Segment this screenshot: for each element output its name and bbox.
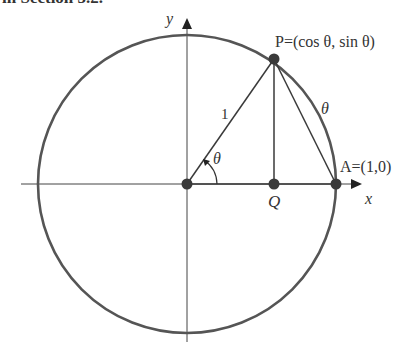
point-a-label: A=(1,0): [340, 158, 391, 176]
x-axis-arrow-icon: [351, 179, 362, 189]
point-p-label: P=(cos θ, sin θ): [275, 33, 375, 51]
angle-label: θ: [213, 150, 221, 168]
arc-length-label: θ: [321, 100, 329, 118]
chord-pa: [274, 59, 336, 184]
point-q-label: Q: [268, 192, 280, 212]
radius-op: [187, 59, 274, 184]
point-a: [331, 179, 342, 190]
y-axis-label: y: [166, 10, 173, 28]
y-axis-arrow-icon: [182, 18, 192, 29]
radius-label: 1: [221, 106, 229, 123]
point-p: [269, 54, 280, 65]
point-origin: [182, 179, 193, 190]
point-q: [269, 179, 280, 190]
x-axis-label: x: [365, 190, 372, 208]
unit-circle-diagram: [0, 0, 409, 356]
